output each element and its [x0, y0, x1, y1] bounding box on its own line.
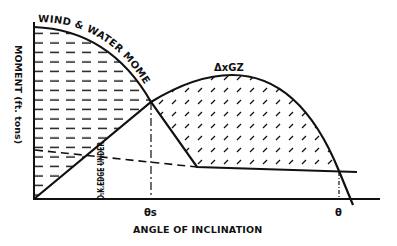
- righting-moment-label: ΔxGZ: [214, 62, 244, 73]
- x-axis-label: ANGLE OF INCLINATION: [133, 224, 262, 235]
- deck-edge-label: D.K.EDGE UNDER: [97, 142, 106, 200]
- theta-s-label: θs: [144, 207, 157, 218]
- wind-moment-area: [35, 28, 151, 199]
- y-axis-label: MOMENT (ft. tons): [13, 45, 24, 144]
- theta-label: θ: [335, 207, 342, 218]
- stability-diagram: WIND & WATER MOMENT ΔxGZ θs θ ANGLE OF I…: [0, 0, 397, 246]
- reserve-energy-area: [151, 75, 339, 171]
